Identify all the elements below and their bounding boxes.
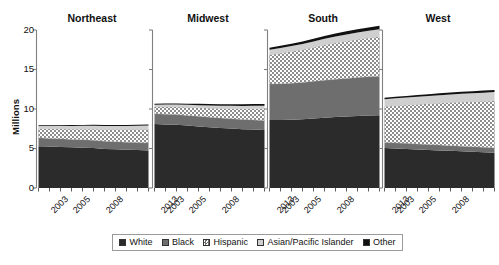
- legend-swatch-icon: [203, 239, 210, 246]
- area-west-white: [385, 148, 495, 188]
- legend-item-white[interactable]: White: [119, 238, 153, 247]
- legend-item-black[interactable]: Black: [162, 238, 195, 247]
- y-tick-10: 10: [4, 103, 34, 114]
- area-south-white: [270, 115, 380, 188]
- area-northeast-white: [39, 146, 149, 188]
- y-tick-15: 15: [4, 63, 34, 74]
- legend-swatch-icon: [119, 239, 126, 246]
- panel-title-northeast: Northeast: [36, 12, 148, 24]
- legend-swatch-icon: [363, 239, 370, 246]
- legend-item-asian-pacific-islander[interactable]: Asian/Pacific Islander: [257, 238, 354, 247]
- legend-label: Other: [373, 238, 396, 247]
- area-midwest-white: [155, 124, 265, 188]
- legend-item-other[interactable]: Other: [363, 238, 396, 247]
- legend-label: Black: [172, 238, 194, 247]
- area-west-hispanic: [385, 101, 495, 148]
- legend-item-hispanic[interactable]: Hispanic: [203, 238, 248, 247]
- y-tick-20: 20: [4, 24, 34, 35]
- y-tick-5: 5: [4, 142, 34, 153]
- y-tick-0: 0: [4, 182, 34, 193]
- panel-title-midwest: Midwest: [152, 12, 264, 24]
- panel-title-west: West: [382, 12, 494, 24]
- chart-legend: WhiteBlackHispanicAsian/Pacific Islander…: [112, 234, 403, 251]
- legend-swatch-icon: [257, 239, 264, 246]
- area-northeast-asian-pacific-islander: [39, 126, 149, 130]
- legend-label: Hispanic: [214, 238, 249, 247]
- plot-area: [0, 0, 499, 265]
- panel-title-south: South: [267, 12, 379, 24]
- legend-label: White: [130, 238, 153, 247]
- legend-label: Asian/Pacific Islander: [268, 238, 354, 247]
- chart-figure: Millions Northeast Midwest South West 20…: [0, 0, 499, 265]
- legend-swatch-icon: [162, 239, 169, 246]
